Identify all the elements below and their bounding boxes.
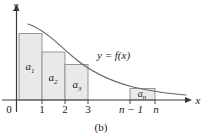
- bar-label-a1-sub: 1: [31, 67, 35, 75]
- x-axis-arrow-icon: [185, 97, 192, 103]
- x-tick-label-n-minus-1: n − 1: [119, 103, 143, 115]
- x-tick-label-1: 1: [39, 103, 45, 115]
- origin-label: 0: [6, 103, 12, 115]
- x-tick-label-2: 2: [62, 103, 68, 115]
- x-tick-label-n: n: [153, 103, 159, 115]
- x-tick-label-3: 3: [85, 103, 91, 115]
- bar-label-a2-sub: 2: [54, 78, 58, 86]
- y-axis-label: y: [13, 0, 19, 11]
- bar-label-a3-sub: 3: [77, 85, 82, 93]
- figure-caption: (b): [95, 121, 108, 134]
- x-axis-label: x: [195, 94, 201, 106]
- figure-container: y x 0 1 2 3 n − 1 n a1 a2 a3 an y = f(x)…: [0, 0, 207, 135]
- integral-test-figure: y x 0 1 2 3 n − 1 n a1 a2 a3 an y = f(x)…: [0, 0, 207, 135]
- bar-label-an-sub: n: [143, 93, 147, 101]
- curve-equation-label: y = f(x): [96, 49, 130, 62]
